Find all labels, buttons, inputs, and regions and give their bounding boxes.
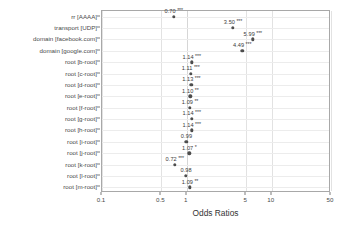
gridline-horizontal bbox=[102, 119, 329, 120]
x-axis-tick bbox=[101, 192, 102, 195]
data-point bbox=[172, 15, 175, 18]
data-point-label: 1.10 ** bbox=[182, 86, 198, 93]
gridline-horizontal bbox=[102, 62, 329, 63]
gridline-horizontal bbox=[102, 39, 329, 40]
y-axis-tick-label: root [d-root] bbox=[65, 80, 97, 87]
significance-stars: *** bbox=[194, 120, 201, 126]
y-axis-tick-label: root [c-root] bbox=[65, 69, 97, 76]
data-point bbox=[188, 151, 191, 154]
x-axis-tick-label: 50 bbox=[327, 196, 334, 203]
plot-panel: 0.70 ***3.50 ***5.99 ***4.49 ***1.14 ***… bbox=[101, 10, 330, 192]
y-axis: rr [AAAA]transport [UDP]domain [facebook… bbox=[0, 10, 97, 192]
significance-stars: ** bbox=[193, 177, 198, 183]
data-point-label: 1.07 * bbox=[182, 143, 197, 150]
y-axis-tick bbox=[97, 27, 100, 28]
significance-stars: ** bbox=[193, 86, 198, 92]
gridline-horizontal bbox=[102, 96, 329, 97]
data-point-value: 1.07 bbox=[182, 145, 193, 151]
data-point-value: 0.72 bbox=[166, 156, 177, 162]
data-point-label: 1.11 *** bbox=[182, 64, 200, 71]
x-axis-tick-label: 0.5 bbox=[156, 196, 165, 203]
data-point bbox=[173, 163, 176, 166]
gridline-horizontal bbox=[102, 142, 329, 143]
y-axis-tick bbox=[97, 106, 100, 107]
significance-stars: *** bbox=[194, 109, 201, 115]
x-axis-tick bbox=[185, 192, 186, 195]
y-axis-tick bbox=[97, 186, 100, 187]
x-axis-title: Odds Ratios bbox=[101, 208, 330, 218]
y-axis-tick-label: root [i-root] bbox=[67, 137, 97, 144]
x-axis-tick-label: 0.1 bbox=[97, 196, 106, 203]
y-axis-tick bbox=[97, 38, 100, 39]
significance-stars: *** bbox=[194, 52, 201, 58]
y-axis-tick-label: root [h-root] bbox=[65, 126, 97, 133]
y-axis-tick bbox=[97, 129, 100, 130]
significance-stars: *** bbox=[193, 64, 200, 70]
data-point-value: 0.98 bbox=[180, 167, 191, 173]
data-point-value: 0.99 bbox=[181, 133, 192, 139]
data-point-value: 3.50 bbox=[224, 19, 235, 25]
data-point bbox=[231, 26, 234, 29]
y-axis-tick-label: rr [AAAA] bbox=[71, 12, 97, 19]
data-point-label: 0.72 *** bbox=[166, 155, 184, 162]
y-axis-tick bbox=[97, 163, 100, 164]
gridline-horizontal bbox=[102, 28, 329, 29]
data-point-value: 5.99 bbox=[244, 31, 255, 37]
y-axis-tick-label: root [f-root] bbox=[67, 103, 97, 110]
y-axis-tick-label: root [j-root] bbox=[67, 149, 97, 156]
y-axis-tick-label: root [l-root] bbox=[67, 171, 97, 178]
gridline-horizontal bbox=[102, 176, 329, 177]
y-axis-tick bbox=[97, 49, 100, 50]
gridline-horizontal bbox=[102, 17, 329, 18]
y-axis-tick-label: transport [UDP] bbox=[54, 24, 97, 31]
y-axis-tick bbox=[97, 152, 100, 153]
data-point bbox=[251, 38, 254, 41]
data-point-value: 1.13 bbox=[182, 76, 193, 82]
y-axis-tick bbox=[97, 174, 100, 175]
y-axis-tick-label: domain [facebook.com] bbox=[33, 35, 97, 42]
x-axis-tick bbox=[245, 192, 246, 195]
significance-stars: *** bbox=[255, 29, 262, 35]
data-point-value: 4.49 bbox=[233, 42, 244, 48]
data-point-label: 0.98 bbox=[180, 167, 191, 173]
y-axis-tick-label: root [e-root] bbox=[65, 92, 97, 99]
data-point-value: 1.09 bbox=[182, 179, 193, 185]
y-axis-tick bbox=[97, 83, 100, 84]
y-axis-tick-label: root [m-root] bbox=[63, 183, 97, 190]
data-point-value: 1.10 bbox=[182, 88, 193, 94]
gridline-horizontal bbox=[102, 108, 329, 109]
data-point-label: 4.49 *** bbox=[233, 41, 251, 48]
y-axis-tick bbox=[97, 61, 100, 62]
data-point-value: 0.70 bbox=[165, 8, 176, 14]
gridline-horizontal bbox=[102, 165, 329, 166]
significance-stars: *** bbox=[176, 7, 183, 13]
gridline-vertical bbox=[331, 11, 332, 191]
gridline-horizontal bbox=[102, 130, 329, 131]
gridline-horizontal bbox=[102, 74, 329, 75]
data-point-label: 0.70 *** bbox=[165, 7, 183, 14]
data-point-label: 1.14 *** bbox=[182, 109, 200, 116]
significance-stars: *** bbox=[193, 75, 200, 81]
data-point-label: 0.99 bbox=[181, 133, 192, 139]
data-point-label: 3.50 *** bbox=[224, 18, 242, 25]
gridline-horizontal bbox=[102, 187, 329, 188]
data-point-label: 5.99 *** bbox=[244, 29, 262, 36]
y-axis-tick bbox=[97, 118, 100, 119]
y-axis-tick bbox=[97, 72, 100, 73]
significance-stars: * bbox=[193, 143, 196, 149]
data-point-value: 1.14 bbox=[182, 110, 193, 116]
y-axis-tick bbox=[97, 95, 100, 96]
y-axis-tick-label: domain [google.com] bbox=[40, 46, 97, 53]
data-point-label: 1.09 ** bbox=[182, 177, 198, 184]
y-axis-tick-label: root [b-root] bbox=[65, 58, 97, 65]
data-point-value: 1.14 bbox=[182, 122, 193, 128]
significance-stars: *** bbox=[244, 41, 251, 47]
x-axis-tick bbox=[160, 192, 161, 195]
data-point-value: 1.14 bbox=[182, 54, 193, 60]
y-axis-tick bbox=[97, 140, 100, 141]
y-axis-tick-label: root [k-root] bbox=[65, 160, 97, 167]
data-point-label: 1.09 ** bbox=[182, 98, 198, 105]
significance-stars: *** bbox=[235, 18, 242, 24]
x-axis-tick-label: 5 bbox=[243, 196, 246, 203]
odds-ratio-forest-plot: rr [AAAA]transport [UDP]domain [facebook… bbox=[0, 0, 345, 233]
